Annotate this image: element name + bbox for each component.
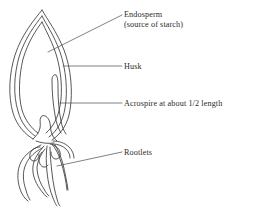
leader-rootlets <box>57 152 122 166</box>
label-rootlets: Rootlets <box>124 148 152 158</box>
endosperm-body <box>19 22 42 133</box>
grain-outline-inner-right <box>42 16 66 137</box>
label-endosperm: Endosperm (source of starch) <box>124 10 183 29</box>
embryo-base <box>33 116 57 141</box>
figure-canvas: Endosperm (source of starch) Husk Acrosp… <box>0 0 255 213</box>
label-endosperm-subtitle: (source of starch) <box>124 20 183 30</box>
label-endosperm-title: Endosperm <box>124 10 162 19</box>
leader-endosperm <box>48 15 122 52</box>
grain-outline-outer-right <box>42 10 71 140</box>
grain-outline-inner-left <box>15 16 42 136</box>
label-husk-title: Husk <box>124 62 142 71</box>
label-husk: Husk <box>124 62 142 72</box>
rootlet-2 <box>33 146 47 197</box>
embryo-neck <box>36 141 54 143</box>
label-acrospire: Acrospire at about 1/2 length <box>124 99 222 109</box>
label-acrospire-title: Acrospire at about 1/2 length <box>124 99 222 108</box>
label-rootlets-title: Rootlets <box>124 148 152 157</box>
